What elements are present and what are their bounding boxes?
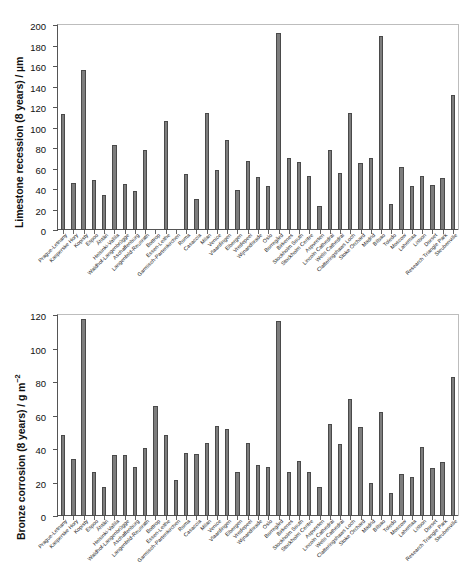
y-axis-title-limestone: Limestone recession (8 years) / µm bbox=[13, 8, 25, 228]
y-tick-label: 80 bbox=[35, 144, 46, 155]
bar bbox=[287, 472, 291, 516]
y-tick-label: 60 bbox=[35, 164, 46, 175]
bar bbox=[430, 468, 434, 516]
bar bbox=[143, 448, 147, 516]
bar-series-bronze bbox=[58, 315, 458, 516]
y-tick-label: 100 bbox=[30, 123, 46, 134]
bar bbox=[112, 145, 116, 230]
bar bbox=[451, 377, 455, 516]
bar bbox=[369, 158, 373, 230]
bar bbox=[81, 70, 85, 230]
bar bbox=[358, 427, 362, 516]
bar bbox=[194, 454, 198, 516]
bar bbox=[420, 176, 424, 230]
bar bbox=[256, 465, 260, 516]
y-tick-label: 200 bbox=[30, 21, 46, 32]
bar bbox=[215, 426, 219, 516]
bar bbox=[61, 114, 65, 230]
y-tick: 20 bbox=[53, 483, 58, 484]
bar bbox=[317, 206, 321, 230]
bar bbox=[389, 204, 393, 230]
y-tick-label: 20 bbox=[35, 205, 46, 216]
bar bbox=[164, 121, 168, 230]
bar bbox=[61, 435, 65, 516]
y-tick: 120 bbox=[53, 315, 58, 316]
bar bbox=[348, 113, 352, 230]
y-tick-label: 140 bbox=[30, 82, 46, 93]
bar bbox=[246, 161, 250, 230]
bar bbox=[410, 477, 414, 516]
bar bbox=[338, 444, 342, 516]
y-tick: 140 bbox=[53, 87, 58, 88]
bar bbox=[256, 177, 260, 230]
bar bbox=[225, 140, 229, 230]
bar bbox=[235, 190, 239, 230]
bar bbox=[123, 184, 127, 230]
bar bbox=[215, 170, 219, 230]
y-tick-label: 0 bbox=[41, 512, 46, 523]
bar bbox=[328, 150, 332, 230]
bar bbox=[369, 483, 373, 517]
bar bbox=[102, 487, 106, 516]
bar bbox=[235, 472, 239, 516]
bar bbox=[430, 185, 434, 230]
limestone-recession-chart: Limestone recession (8 years) / µm 02040… bbox=[0, 0, 463, 294]
bar bbox=[174, 480, 178, 516]
y-tick-label: 0 bbox=[41, 226, 46, 237]
bar bbox=[205, 443, 209, 516]
bar bbox=[358, 163, 362, 230]
y-tick: 100 bbox=[53, 128, 58, 129]
bar bbox=[317, 487, 321, 516]
y-tick: 80 bbox=[53, 382, 58, 383]
y-tick-label: 80 bbox=[35, 378, 46, 389]
bar bbox=[266, 467, 270, 516]
y-tick: 60 bbox=[53, 416, 58, 417]
y-tick-label: 160 bbox=[30, 62, 46, 73]
y-tick: 160 bbox=[53, 66, 58, 67]
bar bbox=[184, 174, 188, 230]
bar bbox=[102, 195, 106, 230]
y-tick-label: 20 bbox=[35, 478, 46, 489]
bar bbox=[153, 406, 157, 516]
y-axis-title-bronze: Bronze corrosion (8 years) / g m−2 bbox=[13, 320, 27, 540]
y-tick: 200 bbox=[53, 25, 58, 26]
bar bbox=[338, 173, 342, 230]
bar bbox=[440, 178, 444, 230]
bar bbox=[276, 321, 280, 516]
bar bbox=[123, 455, 127, 516]
bar bbox=[143, 150, 147, 230]
bar bbox=[112, 455, 116, 516]
bar bbox=[287, 158, 291, 230]
y-tick-label: 100 bbox=[30, 344, 46, 355]
bar bbox=[246, 443, 250, 516]
bar bbox=[379, 36, 383, 230]
bar bbox=[307, 176, 311, 230]
plot-area-limestone: 020406080100120140160180200 bbox=[57, 24, 459, 230]
plot-area-bronze: 020406080100120 bbox=[57, 314, 459, 516]
bar bbox=[133, 191, 137, 230]
y-tick: 80 bbox=[53, 148, 58, 149]
bar bbox=[348, 399, 352, 516]
bar bbox=[379, 412, 383, 516]
bar bbox=[410, 186, 414, 230]
y-tick-label: 40 bbox=[35, 185, 46, 196]
bar bbox=[297, 162, 301, 230]
bar-series-limestone bbox=[58, 25, 458, 230]
y-tick: 120 bbox=[53, 107, 58, 108]
bar bbox=[133, 467, 137, 516]
y-tick: 0 bbox=[53, 516, 58, 517]
bar bbox=[184, 453, 188, 516]
y-tick: 40 bbox=[53, 189, 58, 190]
y-tick: 100 bbox=[53, 349, 58, 350]
y-tick: 180 bbox=[53, 46, 58, 47]
y-tick-label: 40 bbox=[35, 445, 46, 456]
bar bbox=[420, 447, 424, 516]
bar bbox=[389, 493, 393, 516]
y-tick: 40 bbox=[53, 449, 58, 450]
bar bbox=[451, 95, 455, 230]
y-tick-label: 60 bbox=[35, 411, 46, 422]
bronze-corrosion-chart: Bronze corrosion (8 years) / g m−2 02040… bbox=[0, 294, 463, 587]
bar bbox=[307, 472, 311, 516]
bar bbox=[266, 186, 270, 230]
y-tick: 20 bbox=[53, 210, 58, 211]
